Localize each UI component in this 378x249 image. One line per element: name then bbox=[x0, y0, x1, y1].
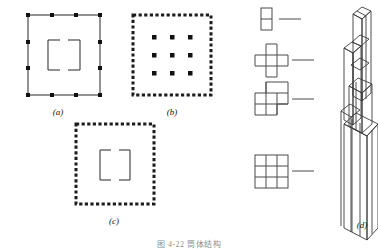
bundled-tube-tower bbox=[341, 7, 378, 240]
panel-b-interior-column-grid bbox=[152, 35, 193, 76]
cross-section-stepped bbox=[255, 82, 288, 115]
panel-a-outer-tube bbox=[28, 15, 100, 95]
panel-b-tube-interior-columns bbox=[133, 15, 211, 95]
figure-caption: 图 4-22 筒体结构 bbox=[0, 238, 378, 249]
cross-section-nine-cell bbox=[255, 155, 288, 188]
tower-vertical-edges bbox=[341, 111, 351, 232]
panel-a-perimeter-columns bbox=[26, 13, 102, 97]
tower-upper-block bbox=[344, 42, 361, 125]
panel-c-tube-in-tube bbox=[76, 124, 154, 204]
panel-label-d: (d) bbox=[352, 220, 372, 230]
panel-c-outer-tube bbox=[76, 124, 154, 204]
panel-label-a: (a) bbox=[48, 107, 68, 117]
cross-section-two-cell bbox=[261, 8, 272, 30]
panel-label-b: (b) bbox=[162, 107, 182, 117]
cross-section-plus bbox=[255, 44, 288, 77]
panel-a-framed-tube bbox=[26, 13, 102, 97]
panel-a-inner-core bbox=[48, 40, 80, 70]
panel-d-bundled-tube bbox=[255, 7, 378, 240]
panel-c-inner-core bbox=[100, 150, 130, 180]
panel-label-c: (c) bbox=[104, 216, 124, 226]
